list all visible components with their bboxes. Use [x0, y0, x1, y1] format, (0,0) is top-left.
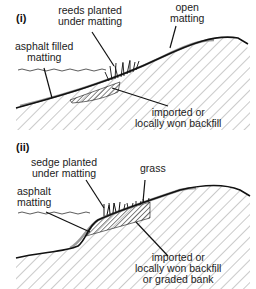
leader-asphalt-i	[44, 68, 52, 98]
annotation-open-matting: open matting	[170, 2, 204, 24]
annotation-backfill-i-line-2: locally won backfill	[135, 118, 221, 129]
annotation-sedge: sedge planted under matting	[31, 157, 97, 179]
annotation-grass: grass	[140, 163, 166, 174]
annotation-backfill-i: imported or locally won backfill	[135, 107, 221, 129]
annotation-asphalt-i: asphalt filled matting	[15, 41, 73, 63]
annotation-asphalt-ii: asphalt matting	[17, 186, 51, 208]
leader-sedge	[86, 180, 104, 208]
annotation-sedge-line-2: under matting	[31, 168, 97, 179]
annotation-grass-line-1: grass	[140, 163, 166, 174]
leader-asphalt-ii	[46, 212, 90, 232]
annotation-asphalt-i-line-2: matting	[15, 52, 73, 63]
water-line-i	[18, 69, 106, 71]
annotation-open-matting-line-2: matting	[170, 13, 204, 24]
panel-label-i: (i)	[16, 12, 26, 24]
leader-open-matting	[170, 26, 176, 48]
annotation-backfill-ii: imported or locally won backfill or grad…	[135, 252, 221, 285]
annotation-reeds: reeds planted under matting	[58, 5, 122, 27]
leader-grass	[143, 180, 145, 202]
water-line-ii	[18, 212, 90, 214]
annotation-asphalt-ii-line-2: matting	[17, 197, 51, 208]
annotation-backfill-ii-line-3: or graded bank	[135, 274, 221, 285]
annotation-reeds-line-2: under matting	[58, 16, 122, 27]
leader-reeds	[92, 32, 114, 66]
panel-label-ii: (ii)	[16, 141, 29, 153]
